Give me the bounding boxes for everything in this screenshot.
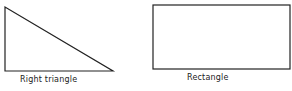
right-triangle-shape bbox=[5, 7, 113, 71]
rectangle-shape bbox=[153, 5, 290, 69]
triangle-label: Right triangle bbox=[20, 75, 77, 84]
rectangle-label: Rectangle bbox=[187, 73, 229, 82]
